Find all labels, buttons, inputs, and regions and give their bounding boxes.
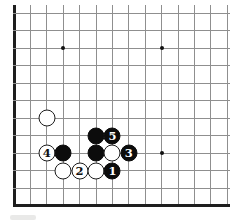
board-bottom-edge-line (13, 204, 231, 207)
black-stone-move-3: 3 (120, 145, 137, 162)
board-grid-vline (30, 5, 31, 207)
cutoff-caption-fragment (10, 215, 36, 220)
stone-move-number: 5 (108, 127, 116, 144)
page: 45321 (0, 0, 236, 223)
board-grid-vline (210, 5, 211, 207)
stone-move-number: 3 (125, 145, 133, 162)
black-stone-move-1: 1 (104, 162, 121, 179)
go-board-diagram: 45321 (0, 0, 236, 223)
board-grid-hline (13, 30, 231, 31)
board-grid-hline (13, 100, 231, 101)
board-grid-hline (13, 13, 231, 14)
star-point (61, 46, 65, 50)
board-grid-hline (13, 135, 231, 136)
stone-move-number: 4 (43, 145, 51, 162)
board-grid-vline (161, 5, 162, 207)
white-stone-move-2: 2 (71, 162, 88, 179)
board-left-edge-line (13, 5, 16, 207)
stone-move-number: 1 (108, 162, 116, 179)
white-stone-move-4: 4 (38, 145, 55, 162)
white-stone (88, 162, 105, 179)
board-grid-hline (13, 65, 231, 66)
board-grid-vline (227, 5, 228, 207)
board-grid-vline (128, 5, 129, 207)
board-grid-hline (13, 83, 231, 84)
star-point (160, 151, 164, 155)
star-point (160, 46, 164, 50)
stone-move-number: 2 (76, 162, 84, 179)
board-grid-vline (46, 5, 47, 207)
black-stone (88, 145, 105, 162)
board-grid-vline (178, 5, 179, 207)
board-grid-hline (13, 170, 231, 171)
board-grid-vline (145, 5, 146, 207)
black-stone-move-5: 5 (104, 127, 121, 144)
black-stone (88, 127, 105, 144)
white-stone (104, 145, 121, 162)
board-grid-hline (13, 188, 231, 189)
board-grid-hline (13, 48, 231, 49)
white-stone (55, 162, 72, 179)
white-stone (38, 110, 55, 127)
black-stone (55, 145, 72, 162)
board-grid-vline (194, 5, 195, 207)
